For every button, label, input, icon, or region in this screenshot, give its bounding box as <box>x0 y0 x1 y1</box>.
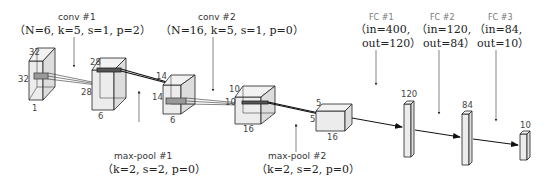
pool2-title: max-pool #2 <box>268 152 326 161</box>
pool1-title: max-pool #1 <box>114 152 172 161</box>
fc1-output-bar <box>404 101 414 157</box>
conv1-out-depth-label: 6 <box>98 112 103 121</box>
conv2-out-depth-label: 16 <box>243 125 254 134</box>
fc2-title: FC #2 <box>430 14 455 22</box>
fc3-params-out: out=10） <box>477 38 529 51</box>
fc2-output-bar <box>462 111 472 165</box>
fc3-title: FC #3 <box>488 14 513 22</box>
conv2-out-height-label: 10 <box>229 85 240 94</box>
pool2-params: （k=2, s=2, p=0） <box>256 164 360 177</box>
conv1-params: （N=6, k=5, s=1, p=2） <box>14 25 151 38</box>
fc3-params-in: （in=84, <box>474 24 522 37</box>
input-height-label: 32 <box>29 48 40 57</box>
pool1-out-width-label: 14 <box>152 93 163 102</box>
conv2-params: （N=16, k=5, s=1, p=0） <box>160 25 304 38</box>
pool2-out-depth-label: 16 <box>327 133 338 142</box>
conv2-output-volume <box>235 86 275 124</box>
pool1-out-height-label: 14 <box>156 72 167 81</box>
fc1-params-in: （in=400, <box>355 24 410 37</box>
fc3-output-bar <box>520 131 530 160</box>
fc1-out-size-label: 120 <box>401 90 417 99</box>
fc2-to-fc3-arrow <box>473 139 518 145</box>
pool2-out-width-label: 5 <box>310 115 315 124</box>
callout-pointers <box>74 37 496 152</box>
pool1-out-depth-label: 6 <box>170 116 175 125</box>
pool1-output-volume <box>163 75 195 114</box>
pool2-output-volume <box>316 104 352 131</box>
pool2-receptive-field <box>268 102 319 114</box>
conv1-out-width-label: 28 <box>81 88 92 97</box>
fc2-params-in: （in=120, <box>416 24 471 37</box>
fc1-to-fc2-arrow <box>415 130 460 137</box>
fc2-out-size-label: 84 <box>462 101 473 110</box>
input-depth-label: 1 <box>32 104 37 113</box>
pool2-out-height-label: 5 <box>316 99 321 108</box>
pool1-params: （k=2, s=2, p=0） <box>102 164 206 177</box>
fc1-title: FC #1 <box>369 14 394 22</box>
conv1-out-height-label: 28 <box>90 58 101 67</box>
fc2-params-out: out=84） <box>423 38 475 51</box>
conv2-out-width-label: 10 <box>225 98 236 107</box>
flatten-arrow <box>352 118 402 127</box>
fc3-out-size-label: 10 <box>520 121 531 130</box>
conv1-title: conv #1 <box>58 13 96 22</box>
input-width-label: 32 <box>18 75 29 84</box>
conv2-title: conv #2 <box>198 13 236 22</box>
fc1-params-out: out=120） <box>362 38 421 51</box>
